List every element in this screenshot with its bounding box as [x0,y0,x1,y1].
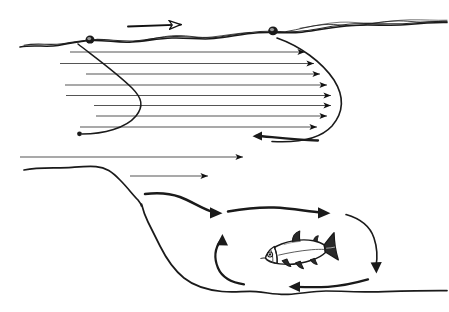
profile-inner-parabola-endpoint [77,131,82,136]
river-flow-diagram-canvas [0,0,449,312]
floating-object-right-highlight [270,28,274,31]
river-flow-diagram-page: { "figure": { "title": "River cross-sect… [0,0,449,312]
diagram-background [0,0,449,312]
floating-object-left-highlight [87,37,91,40]
